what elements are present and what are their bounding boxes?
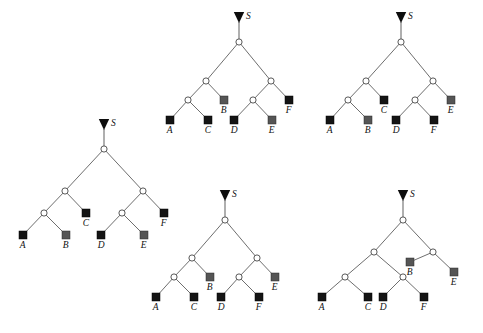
leaf-node-a: [152, 293, 160, 301]
branch-n0-n2: [225, 220, 257, 258]
internal-node-n4: [400, 274, 406, 280]
leaf-label-b: B: [221, 105, 227, 115]
root-label: S: [410, 189, 415, 199]
root-label: S: [111, 118, 116, 128]
leaf-label-b: B: [207, 282, 213, 292]
branch-n2-n4: [253, 81, 271, 100]
branch-n0-n1: [374, 220, 403, 252]
leaf-node-a: [326, 116, 334, 124]
branch-n1-n3: [188, 81, 206, 100]
internal-node-n1: [62, 188, 68, 194]
tree-bottom-right: SACDFBE: [320, 186, 483, 333]
leaf-label-e: E: [268, 125, 275, 135]
leaf-node-f: [430, 116, 438, 124]
internal-node-n0: [101, 146, 107, 152]
leaf-label-b: B: [365, 125, 371, 135]
leaf-node-b: [62, 231, 70, 239]
leaf-node-d: [379, 293, 387, 301]
leaf-node-e: [268, 116, 276, 124]
leaf-label-f: F: [285, 105, 292, 115]
branch-n0-n2: [401, 42, 433, 81]
leaf-label-f: F: [420, 302, 427, 312]
internal-node-n4: [119, 210, 125, 216]
branch-n0-n1: [65, 149, 104, 191]
internal-node-n1: [203, 78, 209, 84]
leaf-label-b: B: [63, 240, 69, 250]
leaf-label-a: A: [19, 240, 26, 250]
internal-node-n2: [268, 78, 274, 84]
leaf-node-f: [255, 293, 263, 301]
internal-node-n2: [430, 249, 436, 255]
branch-n0-n2: [239, 42, 271, 81]
internal-node-n0: [400, 217, 406, 223]
internal-node-n3: [185, 97, 191, 103]
branch-n1-n3: [44, 191, 65, 213]
internal-node-n2: [430, 78, 436, 84]
leaf-label-d: D: [392, 125, 400, 135]
leaf-node-c: [380, 96, 388, 104]
root-label: S: [232, 189, 237, 199]
internal-node-n3: [41, 210, 47, 216]
branch-n1-n4: [374, 252, 403, 277]
internal-node-n1: [371, 249, 377, 255]
branch-n1-n3: [174, 258, 192, 277]
leaf-node-b: [364, 116, 372, 124]
leaf-label-e: E: [450, 277, 457, 287]
leaf-label-c: C: [381, 105, 388, 115]
branch-n1-n3: [348, 81, 366, 100]
leaf-label-a: A: [152, 302, 159, 312]
tree-top-right: SABCDFE: [315, 8, 483, 158]
internal-node-n0: [222, 217, 228, 223]
leaf-label-c: C: [191, 302, 198, 312]
internal-node-n3: [345, 97, 351, 103]
root-marker-triangle-icon: [234, 12, 244, 23]
leaf-node-a: [318, 293, 326, 301]
root-marker-triangle-icon: [398, 190, 408, 201]
branch-n0-n2: [403, 220, 433, 252]
leaf-node-e: [140, 231, 148, 239]
leaf-node-a: [19, 231, 27, 239]
branch-n0-n1: [366, 42, 401, 81]
leaf-label-d: D: [379, 302, 387, 312]
leaf-node-e: [271, 273, 279, 281]
leaf-node-f: [285, 96, 293, 104]
internal-node-n0: [398, 39, 404, 45]
internal-node-n3: [171, 274, 177, 280]
leaf-node-d: [230, 116, 238, 124]
leaf-label-e: E: [271, 282, 278, 292]
leaf-node-e: [450, 268, 458, 276]
internal-node-n1: [189, 255, 195, 261]
internal-node-n4: [412, 97, 418, 103]
internal-node-n2: [140, 188, 146, 194]
leaf-label-c: C: [83, 218, 90, 228]
leaf-label-f: F: [255, 302, 262, 312]
internal-node-n0: [236, 39, 242, 45]
root-label: S: [246, 11, 251, 21]
internal-node-n4: [236, 274, 242, 280]
leaf-label-b: B: [407, 267, 413, 277]
internal-node-n3: [342, 274, 348, 280]
leaf-node-c: [82, 209, 90, 217]
leaf-node-e: [447, 96, 455, 104]
branch-n2-n4: [239, 258, 257, 277]
leaf-label-a: A: [326, 125, 333, 135]
leaf-label-d: D: [97, 240, 105, 250]
branch-n2-n4: [122, 191, 143, 213]
internal-node-n4: [250, 97, 256, 103]
root-marker-triangle-icon: [396, 12, 406, 23]
branch-n0-n1: [192, 220, 225, 258]
branch-n0-n1: [206, 42, 239, 81]
leaf-node-f: [420, 293, 428, 301]
leaf-node-c: [364, 293, 372, 301]
leaf-node-b: [220, 96, 228, 104]
leaf-label-d: D: [230, 125, 238, 135]
internal-node-n2: [254, 255, 260, 261]
leaf-label-f: F: [430, 125, 437, 135]
leaf-node-c: [190, 293, 198, 301]
branch-n1-n3: [345, 252, 374, 277]
leaf-node-d: [392, 116, 400, 124]
root-marker-triangle-icon: [220, 190, 230, 201]
internal-node-n1: [363, 78, 369, 84]
leaf-label-d: D: [217, 302, 225, 312]
leaf-label-c: C: [365, 302, 372, 312]
